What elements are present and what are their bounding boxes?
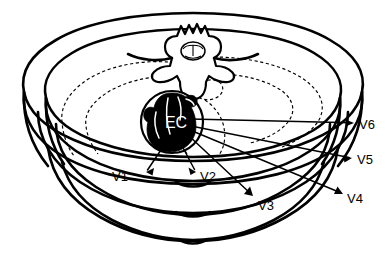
lead-label-V1: V1 <box>112 169 128 184</box>
lead-label-V4: V4 <box>347 191 363 206</box>
lead-arrowhead-V6 <box>346 120 355 127</box>
lead-label-V5: V5 <box>357 152 373 167</box>
heart-group: EC <box>141 91 203 153</box>
lead-label-V2: V2 <box>200 169 216 184</box>
lead-label-V6: V6 <box>359 117 375 132</box>
thorax-cross-section-figure: EC V1 V2 V3 V4 V5 V6 <box>0 0 385 255</box>
lead-label-V3: V3 <box>258 198 274 213</box>
heart-label-EC: EC <box>165 114 187 131</box>
body-outline-level-8 <box>62 162 324 240</box>
thorax-diagram-svg: EC V1 V2 V3 V4 V5 V6 <box>0 0 385 255</box>
